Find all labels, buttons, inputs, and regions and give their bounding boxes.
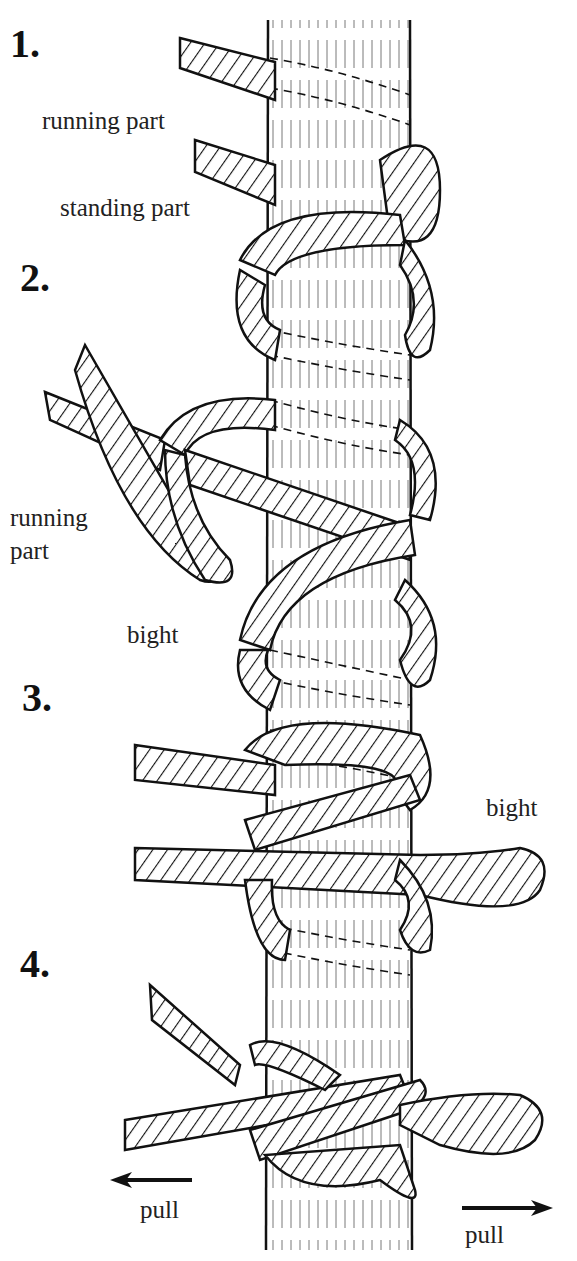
label-bight-step2: bight bbox=[127, 622, 178, 648]
label-pull-left: pull bbox=[140, 1197, 179, 1223]
label-running-part-step2-line2: part bbox=[10, 538, 49, 564]
knot-illustration bbox=[0, 0, 577, 1261]
step-number-4: 4. bbox=[20, 944, 50, 984]
knot-diagram: 1. 2. 3. 4. running part standing part r… bbox=[0, 0, 577, 1261]
step-number-2: 2. bbox=[20, 258, 50, 298]
pull-right-arrow bbox=[462, 1200, 553, 1216]
label-bight-step3: bight bbox=[486, 795, 537, 821]
pull-left-arrow bbox=[110, 1172, 192, 1188]
label-pull-right: pull bbox=[465, 1222, 504, 1248]
label-running-part: running part bbox=[42, 108, 165, 134]
step-number-3: 3. bbox=[22, 678, 52, 718]
label-running-part-step2-line1: running bbox=[10, 505, 88, 531]
label-standing-part: standing part bbox=[60, 195, 190, 221]
step-number-1: 1. bbox=[10, 24, 40, 64]
